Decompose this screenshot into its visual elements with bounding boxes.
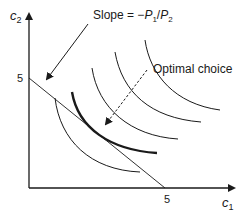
optimal-choice-arrow xyxy=(106,70,147,124)
y-axis-label: c2 xyxy=(10,8,22,25)
optimal-choice-label: Optimal choice xyxy=(153,62,233,76)
slope-arrow xyxy=(47,24,88,79)
slope-label: Slope = −P1/P2 xyxy=(93,8,173,24)
x-axis-tick-5: 5 xyxy=(164,193,170,205)
consumer-choice-diagram: c2 5 5 c1 Slope = −P1/P2 Optimal choice xyxy=(0,0,239,219)
indifference-curve-3 xyxy=(92,68,178,139)
y-axis-tick-5: 5 xyxy=(17,72,23,84)
indifference-curve-optimal xyxy=(72,92,157,153)
x-axis-label: c1 xyxy=(222,195,234,212)
